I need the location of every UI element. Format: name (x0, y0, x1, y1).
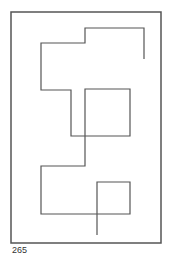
continuous-line-path (41, 28, 144, 235)
figure-number: 265 (12, 245, 27, 255)
line-drawing-figure (0, 0, 173, 255)
outer-frame (11, 12, 161, 243)
